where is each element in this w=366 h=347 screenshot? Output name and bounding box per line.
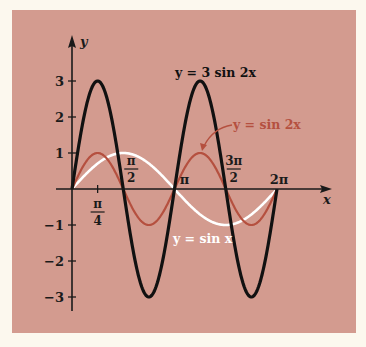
label-sinx: y = sin x xyxy=(172,231,233,246)
x-tick-label-num: π xyxy=(127,154,136,168)
label-3sin2x: y = 3 sin 2x xyxy=(174,65,256,80)
y-tick-label: 2 xyxy=(55,110,64,125)
y-tick-label: 1 xyxy=(55,146,64,161)
y-axis-label: y xyxy=(79,34,89,49)
x-tick-label-num: π xyxy=(93,197,102,211)
x-tick-label-den: 4 xyxy=(93,214,101,228)
y-tick-label: −2 xyxy=(44,254,64,269)
y-tick-label: −3 xyxy=(44,290,64,305)
x-axis-label: x xyxy=(322,192,331,207)
x-tick-label-den: 2 xyxy=(230,171,238,185)
y-tick-label: −1 xyxy=(44,218,64,233)
plot-area: 321−1−2−3π4π2π3π22π y x y = 3 sin 2x y =… xyxy=(0,0,366,347)
x-tick-label: π xyxy=(180,172,190,187)
x-tick-label: 2π xyxy=(270,172,289,187)
x-tick-label-den: 2 xyxy=(127,171,135,185)
label-sin2x: y = sin 2x xyxy=(232,117,301,132)
y-tick-label: 3 xyxy=(55,74,64,89)
sin2x-arrowhead-icon xyxy=(200,143,207,151)
x-tick-label-num: 3π xyxy=(225,154,242,168)
